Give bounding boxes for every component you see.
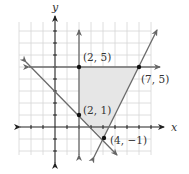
- point-4-neg1: [102, 136, 106, 140]
- label-point-4-neg1: (4, −1): [110, 134, 147, 146]
- x-axis-label: x: [171, 121, 178, 134]
- point-7-5: [137, 65, 141, 69]
- graph: y x (2, 5) (7, 5) (2, 1) (4, −1): [0, 0, 189, 174]
- label-point-2-1: (2, 1): [83, 104, 111, 116]
- point-2-1: [77, 113, 81, 117]
- y-axis-label: y: [51, 1, 59, 14]
- label-point-7-5: (7, 5): [141, 73, 169, 85]
- label-point-2-5: (2, 5): [83, 51, 111, 63]
- point-2-5: [77, 65, 81, 69]
